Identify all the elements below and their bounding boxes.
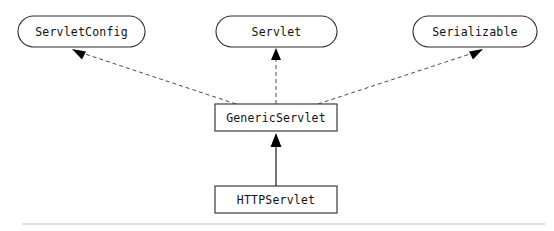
dashed-edge-line bbox=[318, 52, 476, 104]
arrowhead-icon bbox=[271, 133, 282, 147]
arrowhead-icon bbox=[72, 49, 86, 60]
node-generic-servlet[interactable]: GenericServlet bbox=[215, 104, 337, 131]
edge-httpservlet-to-genericservlet bbox=[271, 133, 282, 186]
uml-diagram-canvas: ServletConfig Servlet Serializable Gener… bbox=[0, 0, 554, 231]
dashed-edge-line bbox=[79, 52, 236, 104]
servlet-label: Servlet bbox=[252, 25, 302, 39]
edge-generic-to-servletconfig bbox=[72, 49, 236, 104]
arrowhead-icon bbox=[469, 49, 483, 60]
edge-generic-to-servlet bbox=[271, 48, 281, 104]
node-servlet-config[interactable]: ServletConfig bbox=[18, 16, 145, 47]
http-servlet-label: HTTPServlet bbox=[237, 193, 315, 207]
uml-diagram-svg: ServletConfig Servlet Serializable Gener… bbox=[0, 0, 554, 231]
servlet-config-label: ServletConfig bbox=[35, 25, 128, 39]
node-servlet[interactable]: Servlet bbox=[216, 16, 337, 47]
arrowhead-icon bbox=[271, 48, 281, 60]
edge-generic-to-serializable bbox=[318, 49, 483, 104]
node-serializable[interactable]: Serializable bbox=[413, 16, 537, 47]
generic-servlet-label: GenericServlet bbox=[226, 111, 326, 125]
serializable-label: Serializable bbox=[432, 25, 517, 39]
node-http-servlet[interactable]: HTTPServlet bbox=[215, 186, 337, 213]
